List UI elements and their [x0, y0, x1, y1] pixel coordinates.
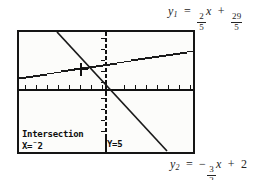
calculator-screen-inner: Intersection X=⁻2 Y=5 — [19, 32, 193, 152]
equation-y1-slope-denominator: 5 — [198, 23, 205, 32]
equation-y2-slope-fraction: 3 2 — [207, 165, 216, 180]
readout-values: X=⁻2 Y=5 — [22, 139, 194, 150]
intersection-readout: Intersection X=⁻2 Y=5 — [22, 129, 194, 150]
calculator-screen: Intersection X=⁻2 Y=5 — [17, 30, 195, 154]
readout-x: X=⁻2 — [22, 139, 43, 151]
equation-y1-equals: = — [184, 4, 191, 18]
equation-y2-slope-numerator: 3 — [208, 165, 215, 174]
equation-y2-subscript: 2 — [176, 163, 180, 172]
equation-y1-subscript: 1 — [174, 10, 178, 19]
equation-y2-intercept: 2 — [241, 157, 247, 171]
equation-y1-operator: + — [218, 4, 225, 18]
equation-y1-intercept-denominator: 5 — [233, 23, 240, 32]
readout-x-label: X= — [22, 141, 32, 151]
readout-y-value: 5 — [117, 139, 122, 149]
equation-y2: y2 = − 3 2 x + 2 — [170, 157, 247, 180]
equation-y1-slope-fraction: 2 5 — [197, 12, 206, 33]
equation-y1-x: x — [206, 4, 212, 18]
equation-y2-slope-denominator: 2 — [208, 176, 215, 180]
equation-y1-intercept-fraction: 29 5 — [231, 12, 242, 33]
readout-title: Intersection — [22, 129, 194, 139]
equation-y2-operator: + — [228, 157, 235, 171]
readout-y: Y=5 — [107, 139, 122, 149]
readout-y-label: Y= — [107, 139, 117, 149]
readout-x-value: 2 — [37, 141, 42, 151]
equation-y1-slope-numerator: 2 — [198, 12, 205, 21]
equation-y1: y1 = 2 5 x + 29 5 — [168, 4, 242, 33]
equation-y2-negative-sign: − — [199, 157, 206, 171]
equation-y2-x: x — [216, 157, 222, 171]
equation-y1-intercept-numerator: 29 — [231, 12, 242, 21]
equation-y2-equals: = — [186, 157, 193, 171]
